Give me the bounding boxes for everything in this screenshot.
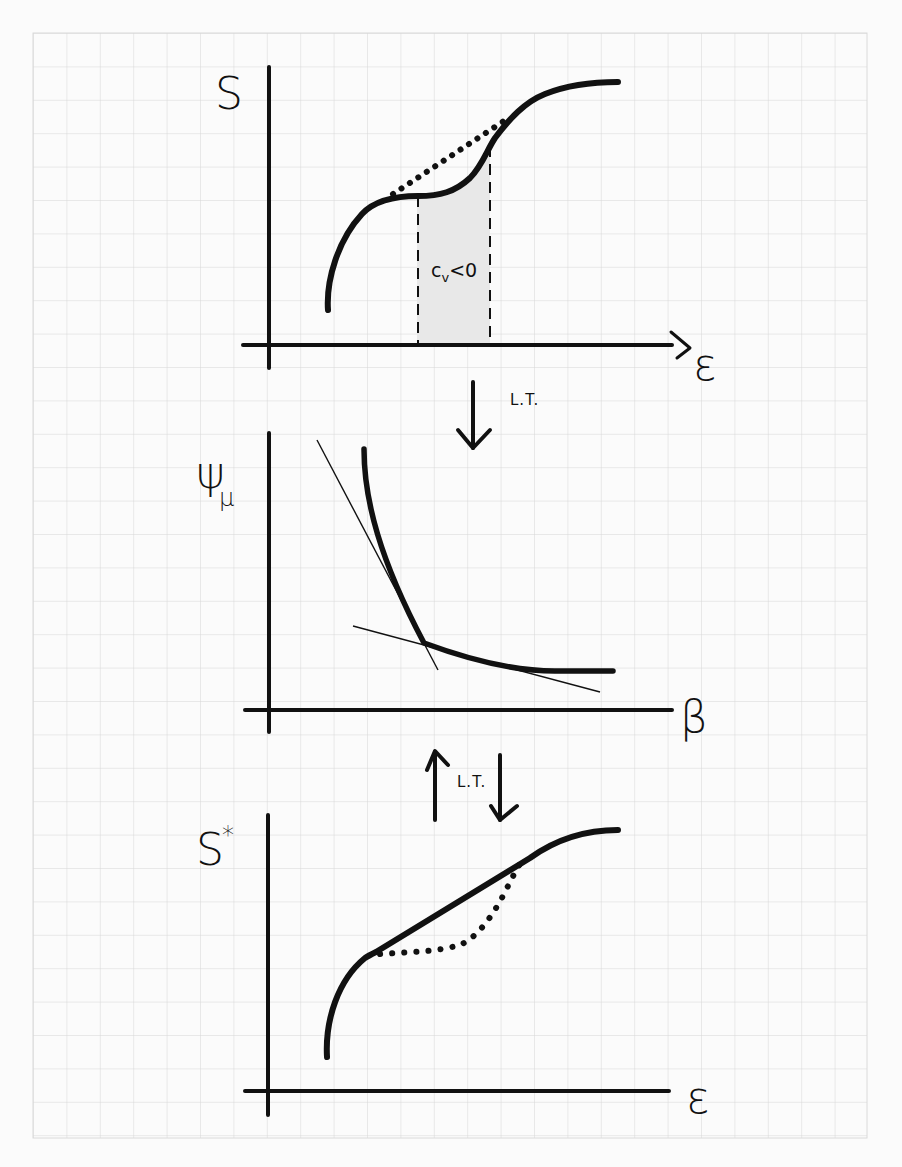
arrow-label-lt-1: L.T.: [510, 391, 539, 409]
diagram-canvas: S ε cv<0 L.T. ψμ β L.T.: [0, 0, 902, 1167]
x-axis-label: β: [680, 691, 708, 742]
x-axis-label: ε: [693, 339, 717, 390]
x-axis-label: ε: [686, 1072, 710, 1123]
graph-paper: S ε cv<0 L.T. ψμ β L.T.: [0, 0, 902, 1167]
arrow-label-lt-2: L.T.: [457, 773, 486, 791]
y-axis-label: S: [215, 68, 243, 119]
